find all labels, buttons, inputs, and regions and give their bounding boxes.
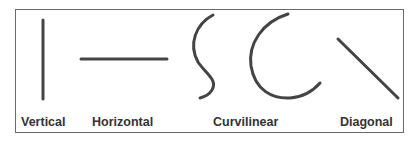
diagonal-line xyxy=(338,39,398,98)
label-horizontal: Horizontal xyxy=(92,115,153,129)
label-vertical: Vertical xyxy=(21,115,65,129)
label-curvilinear: Curvilinear xyxy=(213,115,278,129)
s-curve-line xyxy=(194,15,214,98)
c-curve-line xyxy=(251,14,320,98)
label-diagonal: Diagonal xyxy=(340,115,393,129)
